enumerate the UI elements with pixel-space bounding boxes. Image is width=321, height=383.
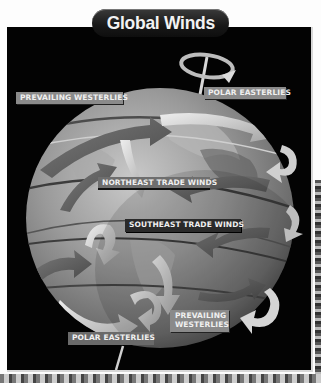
label-text: PREVAILING WESTERLIES xyxy=(20,94,119,102)
label-text-line2: WESTERLIES xyxy=(175,321,224,330)
label-polar-easterlies-north: POLAR EASTERLIES xyxy=(204,87,286,99)
diagram-title: Global Winds xyxy=(106,12,214,34)
label-southeast-trade-winds: SOUTHEAST TRADE WINDS xyxy=(125,219,241,232)
label-text: POLAR EASTERLIES xyxy=(72,334,150,342)
label-text: NORTHEAST TRADE WINDS xyxy=(102,179,206,187)
label-polar-easterlies-south: POLAR EASTERLIES xyxy=(68,332,154,345)
title-banner: Global Winds xyxy=(92,9,229,37)
globe-illustration xyxy=(0,0,321,383)
rotation-axis-south xyxy=(116,346,123,370)
label-prevailing-westerlies-north: PREVAILING WESTERLIES xyxy=(16,92,123,104)
page: Global Winds PREVAILING WESTERLIES POLAR… xyxy=(0,0,321,383)
label-northeast-trade-winds: NORTHEAST TRADE WINDS xyxy=(98,177,210,190)
label-text: SOUTHEAST TRADE WINDS xyxy=(129,221,237,229)
label-prevailing-westerlies-south: PREVAILING WESTERLIES xyxy=(170,310,229,332)
label-text: POLAR EASTERLIES xyxy=(208,89,282,97)
rotation-ring-arrow xyxy=(180,51,236,83)
